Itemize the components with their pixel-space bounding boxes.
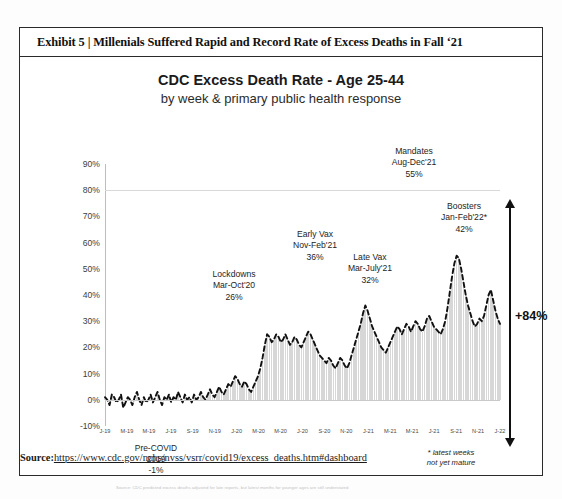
- x-tick-label: M-21: [406, 428, 419, 434]
- x-tick-label: N-19: [209, 428, 221, 434]
- x-tick-label: M-19: [121, 428, 134, 434]
- x-tick-label: J-21: [363, 428, 374, 434]
- source-citation: Source:https://www.cdc.gov/nchs/nvss/vsr…: [20, 452, 540, 463]
- annotation-mandates-line2: Aug-Dec'21: [368, 157, 460, 168]
- annotation-early-vax-line1: Early Vax: [269, 229, 361, 240]
- annotation-late-vax-line1: Late Vax: [324, 252, 416, 263]
- annotation-mandates-line1: Mandates: [368, 146, 460, 157]
- x-tick-label: S-21: [450, 428, 462, 434]
- y-tick-label: 20%: [83, 342, 100, 352]
- x-tick-label: J-22: [495, 428, 506, 434]
- chart-source-note: Source: CDC predicted excess deaths adju…: [116, 485, 436, 490]
- chart-subtitle: by week & primary public health response: [20, 91, 542, 106]
- x-tick-label: M-20: [274, 428, 287, 434]
- y-tick-label: 30%: [83, 316, 100, 326]
- annotation-lockdowns-line3: 26%: [188, 292, 280, 303]
- x-axis-line: [105, 400, 500, 401]
- y-tick-label: 0%: [88, 395, 100, 405]
- annotation-early-vax-line2: Nov-Feb'21: [269, 240, 361, 251]
- annotation-pre-covid-line3: -1%: [98, 465, 214, 476]
- annotation-boosters-line2: Jan-Feb'22*: [418, 212, 510, 223]
- annotation-lockdowns-line1: Lockdowns: [188, 269, 280, 280]
- x-tick-label: S-19: [187, 428, 199, 434]
- chart-title: CDC Excess Death Rate - Age 25-44: [20, 72, 542, 88]
- x-tick-label: M-21: [384, 428, 397, 434]
- exhibit-frame: Exhibit 5 | Millenials Suffered Rapid an…: [19, 27, 543, 476]
- exhibit-title: Exhibit 5 | Millenials Suffered Rapid an…: [20, 35, 463, 50]
- total-change-arrow: [509, 207, 511, 439]
- annotation-late-vax-line2: Mar-July'21: [324, 263, 416, 274]
- annotation-boosters-line1: Boosters: [418, 201, 510, 212]
- y-tick-label: 60%: [83, 238, 100, 248]
- x-tick-label: J-20: [231, 428, 242, 434]
- exhibit-header: Exhibit 5 | Millenials Suffered Rapid an…: [20, 28, 542, 57]
- y-tick-label: 50%: [83, 264, 100, 274]
- x-tick-label: S-20: [319, 428, 331, 434]
- annotation-late-vax-line3: 32%: [324, 275, 416, 286]
- total-change-label: +84%: [515, 309, 548, 323]
- annotation-late-vax: Late Vax Mar-July'21 32%: [324, 252, 416, 286]
- x-tick-label: J-21: [429, 428, 440, 434]
- annotation-lockdowns: Lockdowns Mar-Oct'20 26%: [188, 269, 280, 303]
- annotation-boosters-line3: 42%: [418, 224, 510, 235]
- chart-container: CDC Excess Death Rate - Age 25-44 by wee…: [20, 57, 542, 446]
- x-tick-label: M-20: [252, 428, 265, 434]
- y-axis-labels: 90%80%70%60%50%40%30%20%10%0%-10%: [50, 164, 100, 426]
- annotation-lockdowns-line2: Mar-Oct'20: [188, 280, 280, 291]
- source-url-link[interactable]: https://www.cdc.gov/nchs/nvss/vsrr/covid…: [54, 452, 367, 463]
- y-tick-label: -10%: [80, 421, 100, 431]
- x-tick-label: M-19: [143, 428, 156, 434]
- y-tick-label: 80%: [83, 185, 100, 195]
- x-tick-label: J-20: [297, 428, 308, 434]
- x-tick-label: N-20: [340, 428, 352, 434]
- x-axis-labels: J-19M-19M-19J-19S-19N-19J-20M-20M-20J-20…: [105, 428, 500, 442]
- x-tick-label: J-19: [165, 428, 176, 434]
- y-tick-label: 90%: [83, 159, 100, 169]
- annotation-mandates-line3: 55%: [368, 169, 460, 180]
- y-tick-label: 70%: [83, 211, 100, 221]
- y-tick-label: 40%: [83, 290, 100, 300]
- annotation-boosters: Boosters Jan-Feb'22* 42%: [418, 201, 510, 235]
- x-tick-label: J-19: [100, 428, 111, 434]
- y-tick-label: 10%: [83, 369, 100, 379]
- page-root: Exhibit 5 | Millenials Suffered Rapid an…: [0, 0, 562, 499]
- source-label: Source:: [20, 452, 54, 463]
- gridline-80: [105, 190, 500, 191]
- annotation-mandates: Mandates Aug-Dec'21 55%: [368, 146, 460, 180]
- x-tick-label: N-21: [472, 428, 484, 434]
